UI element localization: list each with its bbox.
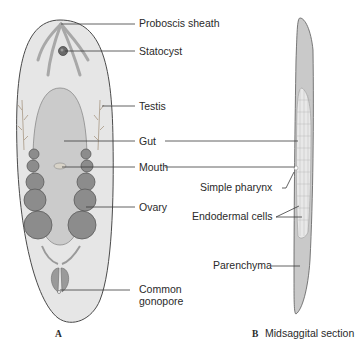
label-endodermal-cells: Endodermal cells xyxy=(192,210,273,222)
label-testis: Testis xyxy=(139,100,166,112)
endodermal-cells xyxy=(296,88,311,238)
label-common-gonopore-line2: gonopore xyxy=(139,295,184,307)
caption-b-letter: B xyxy=(252,329,259,339)
panel-b-leaders xyxy=(165,141,302,266)
common-gonopore xyxy=(58,291,61,294)
label-parenchyma: Parenchyma xyxy=(213,259,272,271)
mouth xyxy=(54,163,66,169)
label-simple-pharynx: Simple pharynx xyxy=(200,181,273,193)
label-proboscis-sheath: Proboscis sheath xyxy=(139,17,220,29)
panel-b-section xyxy=(294,18,313,314)
label-statocyst: Statocyst xyxy=(139,45,182,57)
label-ovary: Ovary xyxy=(139,201,168,213)
label-common-gonopore-line1: Common xyxy=(139,283,182,295)
label-gut: Gut xyxy=(139,135,156,147)
caption-b-text: Midsaggital section xyxy=(265,327,354,339)
panel-a-organism xyxy=(17,20,114,322)
label-mouth: Mouth xyxy=(139,161,168,173)
figure-canvas: Proboscis sheath Statocyst Testis Gut Mo… xyxy=(0,0,356,353)
caption-a: A xyxy=(55,329,62,339)
